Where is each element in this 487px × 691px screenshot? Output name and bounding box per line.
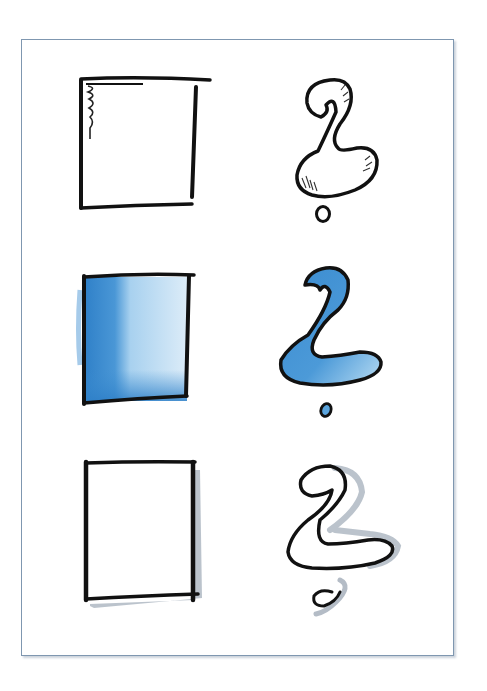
square-icon (79, 274, 195, 404)
question-mark-icon (297, 80, 377, 222)
question-mark-icon (288, 466, 398, 614)
sketch-illustration (0, 0, 487, 691)
square-icon (81, 78, 210, 208)
question-mark-icon (281, 268, 381, 418)
square-icon (86, 462, 202, 608)
